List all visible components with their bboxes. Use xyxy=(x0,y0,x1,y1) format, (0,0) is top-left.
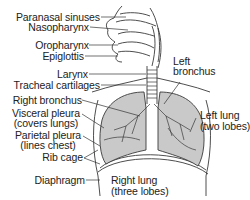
label-epiglottis: Epiglottis xyxy=(2,51,84,62)
label-right-lung-note: (three lobes) xyxy=(111,186,169,197)
label-parietal-pleura-note: (lines chest) xyxy=(12,140,84,151)
label-left-bronchus-2: bronchus xyxy=(173,66,215,77)
label-tracheal-cartilages: Tracheal cartilages xyxy=(2,80,100,91)
label-nasopharynx: Nasopharynx xyxy=(2,22,89,33)
label-left-lung-note: (two lobes) xyxy=(200,121,250,132)
label-right-bronchus: Right bronchus xyxy=(2,95,82,106)
label-visceral-pleura-note: (covers lungs) xyxy=(10,118,82,129)
label-diaphragm: Diaphragm xyxy=(2,175,85,186)
respiratory-diagram: Paranasal sinuses Nasopharynx Oropharynx… xyxy=(0,0,250,200)
label-rib-cage: Rib cage xyxy=(2,152,83,163)
